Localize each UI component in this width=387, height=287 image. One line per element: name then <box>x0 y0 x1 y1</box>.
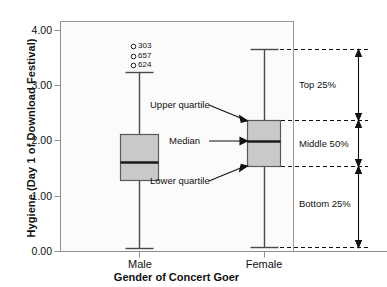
y-tick-label-4: 4.00 <box>16 24 52 36</box>
male-box <box>121 135 159 181</box>
annotation-middle-50: Middle 50% <box>299 138 349 149</box>
x-tick-label-male: Male <box>109 258 171 270</box>
annotation-top-25: Top 25% <box>299 79 336 90</box>
outlier-label-624: 624 <box>138 60 151 69</box>
x-axis-ticks <box>140 252 265 258</box>
outlier-label-303: 303 <box>138 41 151 50</box>
y-tick-label-3: 3.00 <box>16 79 52 91</box>
y-tick-label-0: 0.00 <box>16 245 52 257</box>
annotation-upper-quartile: Upper quartile <box>150 99 210 110</box>
outlier-label-657: 657 <box>138 51 151 60</box>
annotation-median: Median <box>169 135 200 146</box>
range-arrows <box>356 50 362 248</box>
y-tick-label-1: 1.00 <box>16 190 52 202</box>
y-tick-label-2: 2.00 <box>16 134 52 146</box>
annotation-lower-quartile: Lower quartile <box>150 175 210 186</box>
x-tick-label-female: Female <box>233 258 295 270</box>
x-axis-title: Gender of Concert Goer <box>60 271 293 283</box>
y-axis-ticks <box>55 31 61 252</box>
boxplot-figure: Hygiene (Day 1 of Download Festival) 4.0… <box>0 0 387 287</box>
annotation-bottom-25: Bottom 25% <box>299 198 351 209</box>
female-box <box>248 121 281 167</box>
